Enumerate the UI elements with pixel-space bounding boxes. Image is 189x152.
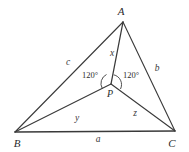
- segment-ab-side-c: [15, 22, 123, 132]
- segment-cp-z: [111, 84, 175, 131]
- vertex-label-a: A: [118, 6, 125, 17]
- segment-bc-side-a: [15, 131, 175, 132]
- side-label-b: b: [155, 64, 160, 74]
- side-label-a: a: [96, 135, 101, 145]
- vertex-label-c: C: [168, 138, 175, 149]
- angle-label-apc: 120°: [123, 71, 139, 80]
- vertex-label-b: B: [14, 138, 21, 149]
- side-label-c: c: [66, 58, 70, 68]
- cevian-label-y: y: [75, 114, 79, 124]
- angle-label-apb: 120°: [82, 71, 98, 80]
- cevian-label-x: x: [110, 49, 114, 59]
- vertex-label-p: P: [107, 89, 113, 99]
- geometry-figure: A B C P a b c x y z 120° 120°: [0, 0, 189, 152]
- cevian-label-z: z: [133, 109, 137, 119]
- segment-bp-y: [15, 84, 111, 132]
